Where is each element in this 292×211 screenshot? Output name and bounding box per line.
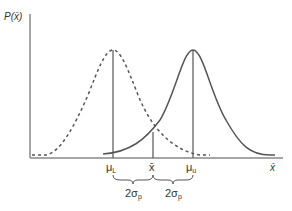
solid-curve-upper (103, 50, 275, 155)
right-brace (153, 175, 193, 184)
left-span-label: 2σp (125, 188, 142, 200)
left-brace (113, 175, 153, 184)
mu-l-label: μL (106, 162, 116, 174)
x-axis-label: x̄ (270, 163, 275, 173)
x-bar-label: x̄ (149, 162, 155, 173)
right-span-label: 2σp (165, 188, 182, 200)
y-axis-label: P(x̄) (4, 12, 22, 22)
dashed-curve-lower (32, 50, 210, 155)
sampling-distribution-diagram (0, 0, 292, 211)
mu-u-label: μu (186, 162, 196, 174)
